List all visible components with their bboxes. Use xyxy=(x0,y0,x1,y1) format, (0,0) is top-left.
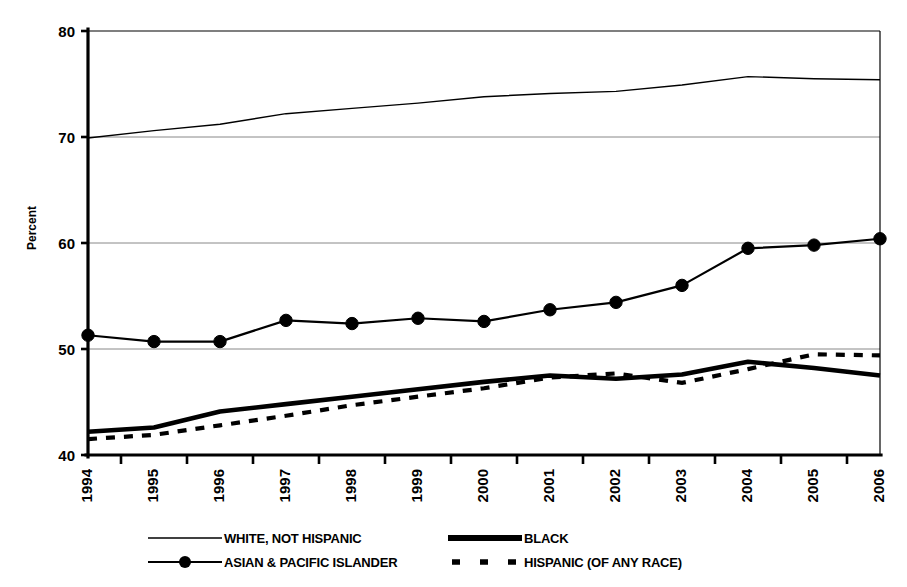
cropped-title-remnant xyxy=(60,0,820,4)
data-point-api-1994 xyxy=(82,329,94,341)
data-point-api-2004 xyxy=(742,242,754,254)
x-tick-label-2004: 2004 xyxy=(738,468,755,502)
x-tick-label-1997: 1997 xyxy=(276,469,293,502)
legend-label-black: BLACK xyxy=(524,531,569,546)
data-point-api-1998 xyxy=(346,317,358,329)
y-axis-title: Percent xyxy=(25,206,39,250)
data-point-api-1997 xyxy=(280,314,292,326)
chart-figure: 4050607080 19941995199619971998199920002… xyxy=(0,0,907,587)
y-tick-label-60: 60 xyxy=(58,235,75,252)
chart-legend: WHITE, NOT HISPANIC BLACK ASIAN & PACIFI… xyxy=(148,531,682,570)
x-tick-labels: 1994199519961997199819992000200120022003… xyxy=(78,468,887,502)
x-tick-label-2005: 2005 xyxy=(804,469,821,502)
data-point-api-2003 xyxy=(676,279,688,291)
x-tick-label-2006: 2006 xyxy=(870,469,887,502)
data-point-api-2001 xyxy=(544,304,556,316)
line-chart: 4050607080 19941995199619971998199920002… xyxy=(0,0,907,587)
data-series-layer xyxy=(82,77,886,440)
legend-label-white: WHITE, NOT HISPANIC xyxy=(224,531,362,546)
x-tick-label-1998: 1998 xyxy=(342,469,359,502)
y-tick-labels: 4050607080 xyxy=(58,23,75,464)
x-tick-label-1996: 1996 xyxy=(210,469,227,502)
y-tick-label-80: 80 xyxy=(58,23,75,40)
legend-label-hispanic: HISPANIC (OF ANY RACE) xyxy=(524,555,682,570)
series-line-black xyxy=(88,362,880,432)
data-point-api-2005 xyxy=(808,239,820,251)
data-point-api-1999 xyxy=(412,312,424,324)
y-tick-label-40: 40 xyxy=(58,447,75,464)
data-point-api-1995 xyxy=(148,335,160,347)
data-point-api-2000 xyxy=(478,315,490,327)
y-tick-label-50: 50 xyxy=(58,341,75,358)
y-tick-label-70: 70 xyxy=(58,129,75,146)
x-tick-label-2002: 2002 xyxy=(606,469,623,502)
legend-swatch-api-marker xyxy=(179,556,191,568)
x-tick-label-2000: 2000 xyxy=(474,469,491,502)
series-line-white-not-hispanic xyxy=(88,77,880,138)
x-tick-label-1994: 1994 xyxy=(78,468,95,502)
data-point-api-1996 xyxy=(214,335,226,347)
series-line-hispanic xyxy=(88,354,880,439)
x-tick-label-2003: 2003 xyxy=(672,469,689,502)
series-markers-asian-pacific-islander xyxy=(82,233,886,348)
legend-label-api: ASIAN & PACIFIC ISLANDER xyxy=(224,555,398,570)
data-point-api-2002 xyxy=(610,296,622,308)
x-tick-label-2001: 2001 xyxy=(540,469,557,502)
x-tick-label-1995: 1995 xyxy=(144,469,161,502)
x-tick-label-1999: 1999 xyxy=(408,469,425,502)
data-point-api-2006 xyxy=(874,233,886,245)
